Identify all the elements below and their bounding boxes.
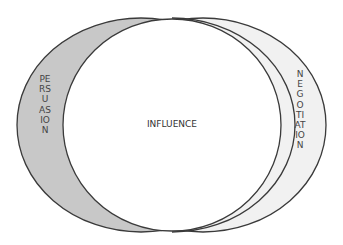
negotiation-label: NEGOTIATION: [294, 69, 306, 151]
influence-label: INFLUENCE: [122, 119, 222, 129]
persuasion-label: PERSUASION: [39, 74, 51, 135]
